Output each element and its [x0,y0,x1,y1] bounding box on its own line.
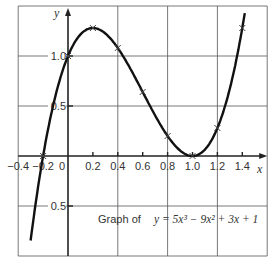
x-tick-label: 0.8 [160,160,175,172]
x-tick-label: 0.4 [110,160,125,172]
x-tick-label: 1.0 [185,160,200,172]
tick-labels: −0.4−0.200.20.40.60.81.01.21.41.00.50.5 [7,50,250,212]
x-axis-arrow-icon [259,153,267,159]
y-tick-label: 1.0 [51,50,66,62]
x-tick-label: 0 [59,160,65,172]
x-axis-label: x [256,162,263,176]
x-tick-label: 0.6 [135,160,150,172]
cubic-function-chart: −0.4−0.200.20.40.60.81.01.21.41.00.50.5 … [0,0,269,267]
x-tick-label: 1.4 [235,160,250,172]
x-tick-label: 0.2 [85,160,100,172]
annotation-equation: y = 5x³ − 9x² + 3x + 1 [153,213,258,226]
point-markers [40,25,245,159]
y-axis-label: y [53,6,60,20]
annotation-prefix: Graph of [98,213,142,225]
x-tick-label: −0.4 [7,160,29,172]
x-tick-label: 1.2 [210,160,225,172]
y-axis-arrow-icon [65,8,71,16]
y-tick-label: 0.5 [51,200,66,212]
